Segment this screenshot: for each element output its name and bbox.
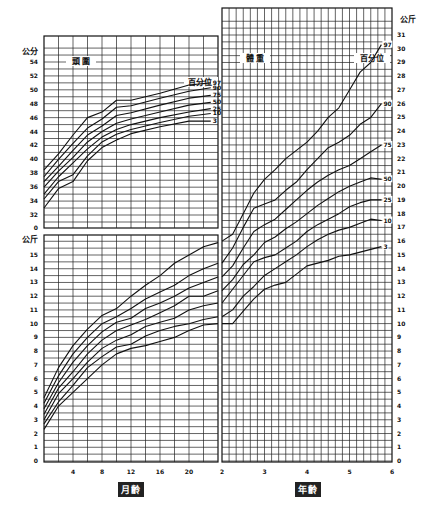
axis-tick-label: 32 <box>30 211 38 218</box>
axis-tick-label: 2 <box>397 430 401 437</box>
axis-tick-label: 10 <box>30 320 38 327</box>
axis-tick-label: 18 <box>397 210 405 217</box>
axis-tick-label: 15 <box>30 251 38 258</box>
axis-tick-label: 7 <box>34 361 38 368</box>
axis-tick-label: 4 <box>305 468 309 475</box>
chart-title-weight: 體 重 <box>246 53 265 63</box>
axis-tick-label: 20 <box>185 468 193 475</box>
axis-tick-label: 14 <box>30 265 38 272</box>
axis-tick-label: 5 <box>397 388 401 395</box>
weight-child-p10-line <box>222 219 381 317</box>
axis-tick-label: 22 <box>397 155 405 162</box>
axis-tick-label: 0 <box>34 224 38 231</box>
axis-tick-label: 34 <box>30 197 38 204</box>
axis-tick-label: 3 <box>397 416 401 423</box>
head-circumference-p3-line <box>44 121 211 208</box>
legend-title-percentile: 百分位 <box>188 77 212 87</box>
axis-tick-label: 14 <box>397 265 405 272</box>
percentile-label-10: 10 <box>213 109 221 116</box>
chart-title-head-circumference: 頭 圍 <box>72 57 91 66</box>
axis-tick-label: 11 <box>397 306 405 313</box>
axis-tick-label: 2 <box>220 468 224 475</box>
axis-tick-label: 6 <box>390 468 394 475</box>
percentile-label-right-75: 75 <box>383 141 391 148</box>
y-axis-unit-cm: 公分 <box>22 46 38 56</box>
axis-tick-label: 15 <box>397 251 405 258</box>
axis-tick-label: 50 <box>30 86 38 93</box>
head-circumference-p50-line <box>44 102 211 187</box>
axis-tick-label: 29 <box>397 58 405 65</box>
axis-tick-label: 5 <box>34 388 38 395</box>
weight-child-p97-line <box>222 45 381 242</box>
axis-tick-label: 1 <box>34 443 38 450</box>
axis-tick-label: 36 <box>30 183 38 190</box>
axis-tick-label: 16 <box>397 237 405 244</box>
axis-tick-label: 54 <box>30 58 38 65</box>
growth-chart: 0323436384042444648505254公分0123456789101… <box>0 0 424 511</box>
axis-tick-label: 25 <box>397 113 405 120</box>
axis-tick-label: 19 <box>397 196 405 203</box>
axis-tick-label: 28 <box>397 72 405 79</box>
axis-tick-label: 12 <box>127 468 135 475</box>
percentile-label-right-10: 10 <box>383 217 391 224</box>
axis-tick-label: 24 <box>397 127 405 134</box>
axis-tick-label: 9 <box>34 333 38 340</box>
axis-tick-label: 10 <box>397 320 405 327</box>
axis-tick-label: 31 <box>397 31 405 38</box>
axis-tick-label: 52 <box>30 72 38 79</box>
axis-tick-label: 44 <box>30 128 38 135</box>
weight-child-p3-line <box>222 247 381 324</box>
axis-tick-label: 1 <box>397 443 401 450</box>
percentile-label-right-97: 97 <box>383 41 391 48</box>
percentile-label-right-90: 90 <box>383 100 391 107</box>
axis-tick-label: 46 <box>30 114 38 121</box>
axis-tick-label: 48 <box>30 100 38 107</box>
axis-tick-label: 9 <box>397 333 401 340</box>
axis-tick-label: 12 <box>30 292 38 299</box>
axis-tick-label: 12 <box>397 292 405 299</box>
weight-child-grid <box>222 8 392 462</box>
axis-tick-label: 0 <box>34 457 38 464</box>
axis-tick-label: 16 <box>156 468 164 475</box>
axis-tick-label: 4 <box>34 402 38 409</box>
axis-tick-label: 4 <box>397 402 401 409</box>
legend-title-percentile-right: 百分位 <box>360 53 384 63</box>
axis-tick-label: 42 <box>30 141 38 148</box>
axis-tick-label: 2 <box>34 430 38 437</box>
axis-tick-label: 30 <box>397 45 405 52</box>
axis-tick-label: 40 <box>30 155 38 162</box>
percentile-label-right-50: 50 <box>383 175 391 182</box>
axis-tick-label: 23 <box>397 141 405 148</box>
y-axis-unit-kg-right: 公斤 <box>400 14 416 24</box>
axis-tick-label: 26 <box>397 100 405 107</box>
y-axis-unit-kg: 公斤 <box>22 234 38 244</box>
axis-tick-label: 13 <box>397 278 405 285</box>
percentile-label-right-3: 3 <box>383 243 387 250</box>
percentile-label-75: 75 <box>213 91 221 98</box>
axis-tick-label: 0 <box>397 457 401 464</box>
axis-tick-label: 17 <box>397 223 405 230</box>
axis-tick-label: 8 <box>34 347 38 354</box>
weight-child-p75-line <box>222 145 381 277</box>
head-circumference-p90-line <box>44 88 211 177</box>
x-axis-label-months: 月齡 <box>118 482 144 497</box>
x-axis-label-years: 年齡 <box>295 482 321 497</box>
axis-tick-label: 8 <box>397 347 401 354</box>
axis-tick-label: 38 <box>30 169 38 176</box>
percentile-label-right-25: 25 <box>383 196 391 203</box>
axis-tick-label: 20 <box>397 182 405 189</box>
percentile-label-3: 3 <box>213 117 217 124</box>
axis-tick-label: 27 <box>397 86 405 93</box>
axis-tick-label: 8 <box>100 468 104 475</box>
axis-tick-label: 3 <box>262 468 266 475</box>
axis-tick-label: 21 <box>397 168 405 175</box>
axis-tick-label: 13 <box>30 278 38 285</box>
axis-tick-label: 3 <box>34 416 38 423</box>
axis-tick-label: 11 <box>30 306 38 313</box>
axis-tick-label: 5 <box>347 468 351 475</box>
axis-tick-label: 6 <box>397 375 401 382</box>
axis-tick-label: 7 <box>397 361 401 368</box>
axis-tick-label: 4 <box>71 468 75 475</box>
axis-tick-label: 6 <box>34 375 38 382</box>
percentile-label-90: 90 <box>213 84 221 91</box>
